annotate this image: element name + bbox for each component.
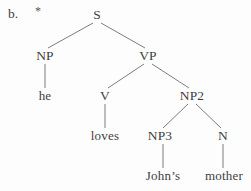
category-node-np: NP: [36, 48, 54, 64]
category-node-n: N: [218, 128, 228, 144]
category-node-s: S: [93, 7, 101, 23]
category-node-vp: VP: [139, 48, 157, 64]
tree-edge-vp-v: [108, 64, 144, 88]
syntax-tree-figure: b. * SNPVPheVNP2lovesNP3NJohn’smother: [0, 0, 251, 191]
tree-edge-np2-np3: [163, 104, 188, 128]
terminal-node-mother: mother: [205, 168, 243, 184]
tree-edge-np2-n: [196, 104, 221, 128]
category-node-np2: NP2: [180, 88, 205, 104]
category-node-v: V: [100, 88, 110, 104]
terminal-node-loves: loves: [91, 128, 119, 144]
tree-edge-vp-np2: [152, 64, 189, 88]
tree-edges: [0, 0, 251, 191]
terminal-node-johns: John’s: [146, 168, 180, 184]
tree-edge-s-np: [48, 23, 93, 48]
terminal-node-he: he: [39, 88, 52, 104]
category-node-np3: NP3: [148, 128, 173, 144]
tree-edge-s-vp: [101, 23, 145, 48]
